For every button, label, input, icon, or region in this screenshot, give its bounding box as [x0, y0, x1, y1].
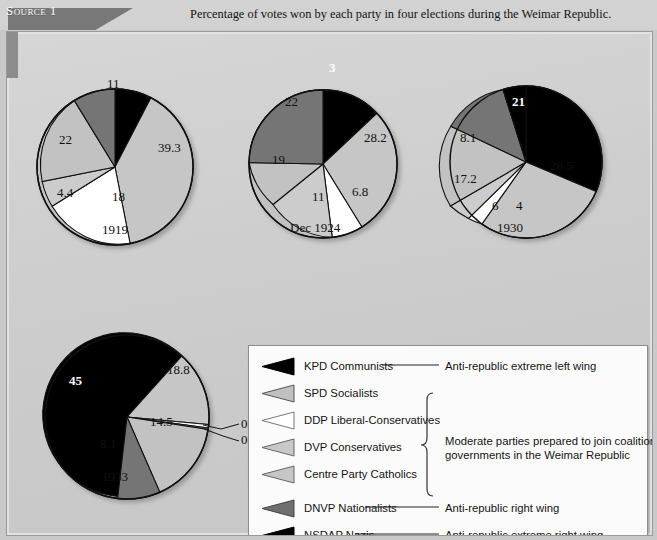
- pie-chart-1933-slices: [43, 333, 239, 499]
- pie-1930-label-black: 21: [512, 94, 525, 110]
- dvp-swatch-icon: [261, 438, 295, 457]
- kpd-swatch-icon: [261, 357, 295, 376]
- pie-1930-label-centre: 17.2: [454, 171, 477, 187]
- source-figure: Source 1 Percentage of votes won by each…: [0, 0, 657, 540]
- legend-desc-kpd: Anti-republic extreme left wing: [445, 360, 596, 372]
- centre-swatch-icon: [261, 465, 295, 484]
- legend-label-ddp: DDP Liberal-Conservatives: [304, 414, 440, 426]
- legend-item-spd[interactable]: SPD Socialists: [261, 381, 378, 405]
- pie-1924-label-centre: 19: [272, 152, 285, 168]
- legend-label-nsdap: NSDAP Nazis: [304, 529, 374, 536]
- nsdap-swatch-icon: [261, 526, 295, 537]
- legend-label-kpd: KPD Communists: [304, 360, 393, 372]
- legend-item-centre[interactable]: Centre Party Catholics: [261, 462, 417, 486]
- legend-item-nsdap[interactable]: NSDAP Nazis: [261, 523, 374, 536]
- legend-label-dnvp: DNVP Nationalists: [304, 502, 397, 514]
- spd-swatch-icon: [261, 384, 295, 403]
- leader-line-0-3: [204, 429, 239, 441]
- legend-item-ddp[interactable]: DDP Liberal-Conservatives: [261, 408, 440, 432]
- pie-1930-year: 1930: [497, 220, 523, 236]
- pie-1924-label-kpd: 3: [329, 60, 336, 76]
- pie-1919-label-ddp: 18: [112, 189, 125, 205]
- pie-1924-year: Dec 1924: [290, 220, 340, 236]
- pie-1930-label-ddp: 4: [516, 198, 523, 214]
- legend-item-dnvp[interactable]: DNVP Nationalists: [261, 496, 397, 520]
- pie-1919-label-spd: 39.3: [158, 140, 181, 156]
- pie-1930-label-dnvp: 8.1: [460, 130, 476, 146]
- figure-header: Source 1 Percentage of votes won by each…: [0, 0, 657, 30]
- pie-1933-label-nsdap: 45: [69, 373, 82, 389]
- pie-1919-label-dnvp: 11: [107, 76, 120, 92]
- dnvp-swatch-icon: [261, 499, 295, 518]
- pie-1924-label-spd: 28.2: [364, 130, 387, 146]
- legend-label-spd: SPD Socialists: [304, 387, 378, 399]
- legend-item-dvp[interactable]: DVP Conservatives: [261, 435, 402, 459]
- pie-1924-label-dvp: 11: [312, 189, 325, 205]
- figure-title: Percentage of votes won by each party in…: [190, 7, 650, 22]
- pie-1933-label-dnvp: 8.1: [100, 436, 116, 452]
- legend-label-centre: Centre Party Catholics: [304, 468, 417, 480]
- pie-1933-label-centre: 14.5: [150, 414, 173, 430]
- source-label: Source 1: [6, 3, 57, 19]
- legend-label-dvp: DVP Conservatives: [304, 441, 402, 453]
- pie-1930-label-spd: 28.5: [550, 158, 573, 174]
- pie-1919-label-dvp: 4.4: [57, 185, 73, 201]
- pie-1919-label-centre: 22: [59, 132, 72, 148]
- legend-desc-nsdap: Anti-republic extreme right wing: [445, 529, 603, 536]
- legend-desc-dnvp: Anti-republic right wing: [445, 502, 559, 514]
- pie-1919-year: 1919: [102, 222, 128, 238]
- legend-item-kpd[interactable]: KPD Communists: [261, 354, 393, 378]
- pie-1930-label-dvp: 6: [492, 198, 499, 214]
- pie-1924-label-ddp: 6.8: [352, 184, 368, 200]
- pie-1933-year: 1933: [102, 469, 128, 485]
- legend-panel: KPD Communists Anti-republic extreme lef…: [248, 345, 648, 536]
- ddp-swatch-icon: [261, 411, 295, 430]
- pie-1933-label-spd: 18.8: [167, 362, 190, 378]
- figure-body: 39.3 18 4.4 22 11 1919 3 28.2 6.8 11 19 …: [6, 31, 653, 536]
- pie-1924-label-dnvp: 22: [285, 94, 298, 110]
- legend-moderate-note: Moderate parties prepared to join coalit…: [445, 434, 653, 462]
